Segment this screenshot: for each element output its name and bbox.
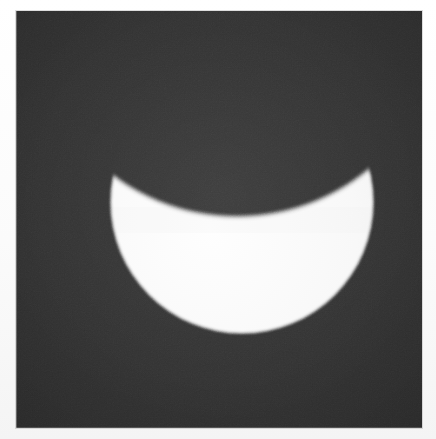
eclipse-sky-plate xyxy=(16,11,422,428)
print-edge-bottom xyxy=(16,427,422,428)
photograph-caption xyxy=(16,429,422,439)
photograph-print xyxy=(16,11,422,428)
print-edge-left xyxy=(16,11,17,428)
eclipse-photograph-page xyxy=(0,0,436,439)
